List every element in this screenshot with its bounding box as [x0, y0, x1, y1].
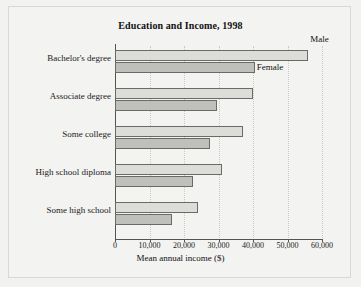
x-tick-label: 30,000	[208, 241, 230, 250]
category-label: Some college	[62, 129, 111, 139]
bar-female	[115, 138, 210, 149]
annotation-female: Female	[257, 62, 284, 72]
bar-female	[115, 62, 255, 73]
annotation-male: Male	[310, 34, 329, 44]
gridline	[253, 46, 254, 238]
plot-area: MaleFemale	[115, 46, 322, 238]
x-tick-label: 20,000	[173, 241, 195, 250]
gridline	[322, 46, 323, 238]
x-tick-label: 40,000	[242, 241, 264, 250]
figure: Education and Income, 1998 Bachelor's de…	[0, 0, 361, 287]
bar-male	[115, 202, 198, 213]
bar-female	[115, 100, 217, 111]
bar-male	[115, 88, 253, 99]
category-label: High school diploma	[36, 167, 112, 177]
bar-female	[115, 214, 172, 225]
bar-male	[115, 50, 308, 61]
category-label: Bachelor's degree	[47, 53, 111, 63]
x-tick-label: 10,000	[139, 241, 161, 250]
gridline	[288, 46, 289, 238]
category-axis-labels: Bachelor's degreeAssociate degreeSome co…	[0, 0, 111, 287]
bar-female	[115, 176, 193, 187]
category-label: Some high school	[47, 205, 112, 215]
x-tick-label: 0	[113, 241, 117, 250]
x-axis-title: Mean annual income ($)	[0, 253, 361, 263]
gridline	[219, 46, 220, 238]
x-tick-label: 60,000	[311, 241, 333, 250]
bar-male	[115, 126, 243, 137]
category-label: Associate degree	[50, 91, 111, 101]
bar-male	[115, 164, 222, 175]
x-tick-label: 50,000	[277, 241, 299, 250]
